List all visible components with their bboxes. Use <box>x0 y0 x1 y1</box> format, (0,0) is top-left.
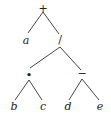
node-c: c <box>40 100 46 113</box>
node-a: a <box>23 34 30 47</box>
expression-tree: + a / • − b c d e <box>0 0 111 114</box>
edge-sub-e <box>82 79 99 100</box>
edge-div-mul <box>30 47 60 68</box>
node-b: b <box>10 100 17 113</box>
edge-sub-d <box>69 79 82 100</box>
edge-mul-b <box>15 80 29 100</box>
node-plus: + <box>38 2 47 15</box>
edge-mul-c <box>29 80 42 100</box>
nodes: + a / • − b c d e <box>10 2 103 113</box>
node-minus: − <box>77 67 86 80</box>
edges <box>15 12 99 100</box>
node-e: e <box>97 100 104 113</box>
node-d: d <box>64 100 71 113</box>
edge-root-div <box>43 12 59 34</box>
node-multiply: • <box>26 69 33 82</box>
node-divide: / <box>58 33 62 46</box>
edge-root-a <box>28 12 43 33</box>
